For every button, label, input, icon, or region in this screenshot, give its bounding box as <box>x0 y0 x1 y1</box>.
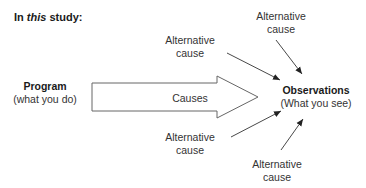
alt-line1: Alternative <box>155 34 225 47</box>
causes-label: Causes <box>160 92 220 105</box>
program-name: Program <box>2 80 88 93</box>
alt-cause-bottom-left: Alternative cause <box>155 131 225 156</box>
alt-line1: Alternative <box>246 10 316 23</box>
observations-desc: (What you see) <box>268 97 364 110</box>
alt-arrow-top-left <box>227 53 280 80</box>
alt-cause-top-right: Alternative cause <box>246 10 316 35</box>
alt-cause-top-left: Alternative cause <box>155 34 225 59</box>
observations-name: Observations <box>268 84 364 97</box>
alt-line1: Alternative <box>242 158 312 171</box>
alt-line2: cause <box>155 47 225 60</box>
program-block: Program (what you do) <box>2 80 88 105</box>
alt-line2: cause <box>242 171 312 184</box>
alt-arrow-bottom-right <box>281 119 303 150</box>
observations-block: Observations (What you see) <box>268 84 364 109</box>
alt-line2: cause <box>246 23 316 36</box>
alt-arrow-top-right <box>276 40 302 74</box>
alt-line2: cause <box>155 144 225 157</box>
program-desc: (what you do) <box>2 93 88 106</box>
alt-arrow-bottom-left <box>231 111 281 137</box>
alt-cause-bottom-right: Alternative cause <box>242 158 312 183</box>
alt-line1: Alternative <box>155 131 225 144</box>
